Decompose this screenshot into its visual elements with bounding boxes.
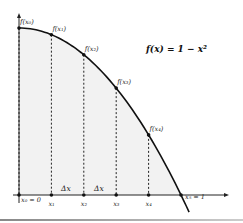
x-label-0: x₀ = 0 bbox=[21, 196, 41, 204]
curve-point-4 bbox=[147, 133, 151, 137]
curve-point-1 bbox=[50, 33, 54, 37]
riemann-sum-diagram: f(x₀)x₀ = 0f(x₁)x₁f(x₂)x₂f(x₃)x₃f(x₄)x₄x… bbox=[0, 0, 243, 223]
x-label-5: x₅ = 1 bbox=[185, 193, 205, 201]
f-label-0: f(x₀) bbox=[19, 18, 34, 26]
axis-point-4 bbox=[147, 193, 151, 197]
f-label-4: f(x₄) bbox=[149, 125, 164, 133]
axis-point-3 bbox=[114, 193, 118, 197]
x-label-2: x₂ bbox=[81, 200, 88, 208]
axis-point-5 bbox=[179, 193, 183, 197]
curve-point-2 bbox=[82, 53, 86, 57]
curve-point-3 bbox=[114, 86, 118, 90]
f-label-3: f(x₃) bbox=[116, 78, 131, 86]
curve-point-0 bbox=[17, 26, 21, 30]
bottom-rule bbox=[0, 219, 243, 221]
x-axis-arrow-icon bbox=[224, 193, 229, 197]
x-label-3: x₃ bbox=[113, 200, 120, 208]
axis-point-1 bbox=[50, 193, 54, 197]
f-label-1: f(x₁) bbox=[51, 25, 66, 33]
axis-point-2 bbox=[82, 193, 86, 197]
x-label-4: x₄ bbox=[146, 200, 153, 208]
delta-x-label-2: Δx bbox=[93, 184, 104, 193]
x-label-1: x₁ bbox=[48, 200, 54, 208]
function-title: f(x) = 1 − x² bbox=[145, 44, 207, 54]
f-label-2: f(x₂) bbox=[84, 45, 99, 53]
delta-x-label-1: Δx bbox=[60, 184, 71, 193]
